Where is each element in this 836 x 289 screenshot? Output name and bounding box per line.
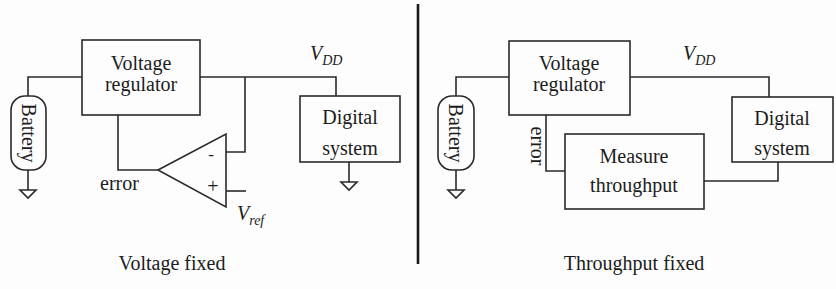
error-label-right: error — [527, 127, 549, 166]
digital-label-line1: Digital — [322, 106, 378, 129]
regulator-label-line2: regulator — [105, 73, 178, 96]
battery-label: Battery — [17, 104, 40, 163]
battery-ground-icon — [20, 190, 36, 198]
opamp-plus: + — [207, 175, 218, 197]
vref-label: Vref — [237, 202, 266, 228]
vdd-wire — [200, 77, 336, 96]
throughput-wire — [704, 162, 778, 181]
left-panel: Voltage regulator Battery - + error Vref… — [11, 40, 400, 275]
measure-label-line1: Measure — [600, 145, 669, 167]
battery-label-right: Battery — [444, 104, 467, 163]
opamp-minus: - — [208, 145, 214, 164]
error-wire — [118, 115, 158, 170]
digital-label-line2-right: system — [754, 137, 810, 160]
left-caption: Voltage fixed — [119, 252, 226, 275]
battery-wire — [28, 77, 82, 96]
digital-label-line1-right: Digital — [754, 107, 810, 130]
regulator-label-line1: Voltage — [111, 52, 172, 75]
right-caption: Throughput fixed — [564, 252, 705, 275]
vdd-label-right: VDD — [683, 42, 715, 68]
diagram-canvas: Voltage regulator Battery - + error Vref… — [0, 0, 836, 289]
feedback-wire — [226, 77, 245, 152]
battery-wire-right — [456, 77, 509, 96]
vdd-label: VDD — [310, 42, 342, 68]
digital-label-line2: system — [322, 137, 378, 160]
vdd-wire-right — [630, 77, 769, 97]
battery-ground-icon-right — [448, 190, 464, 198]
digital-ground-icon — [341, 182, 357, 190]
regulator-label-line2-right: regulator — [533, 73, 606, 96]
measure-label-line2: throughput — [590, 174, 678, 197]
error-label: error — [100, 172, 139, 194]
regulator-label-line1-right: Voltage — [539, 52, 600, 75]
right-panel: Voltage regulator Battery error Measure … — [438, 41, 833, 275]
